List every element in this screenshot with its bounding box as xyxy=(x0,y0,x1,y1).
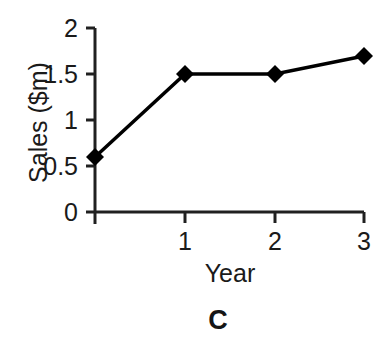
y-axis-title: Sales ($m) xyxy=(24,48,53,198)
panel-label: C xyxy=(178,305,258,336)
x-axis-title: Year xyxy=(175,259,285,288)
data-point-year-3 xyxy=(355,47,373,65)
x-tick-label-2: 2 xyxy=(268,229,282,254)
chart-figure: 2 1.5 1 0.5 0 1 2 3 Sales ($m) Year C xyxy=(0,0,391,349)
x-tick-label-1: 1 xyxy=(178,229,192,254)
y-tick-label-0: 0 xyxy=(44,200,78,225)
y-tick-label-2: 2 xyxy=(44,16,78,41)
data-point-year-2 xyxy=(266,65,284,83)
x-tick-label-3: 3 xyxy=(357,229,371,254)
series-line-sales xyxy=(95,56,364,157)
